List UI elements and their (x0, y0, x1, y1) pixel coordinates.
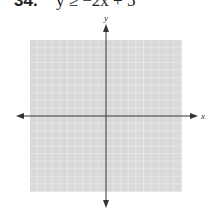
x-axis-label: x (200, 111, 205, 121)
y-axis-down-arrow-icon (103, 200, 109, 208)
x-axis-right-arrow-icon (190, 113, 198, 119)
x-axis-left-arrow-icon (16, 113, 24, 119)
coordinate-plane: x y (0, 0, 213, 224)
y-axis-label: y (103, 13, 108, 23)
y-axis-up-arrow-icon (103, 24, 109, 32)
